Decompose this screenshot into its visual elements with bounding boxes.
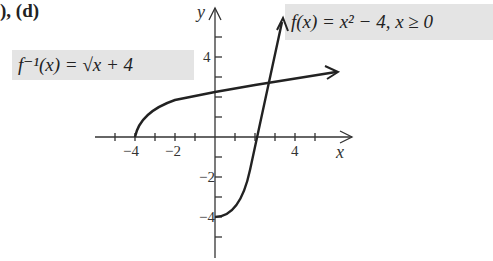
svg-text:−2: −2 <box>165 143 181 159</box>
svg-text:−2: −2 <box>199 169 215 185</box>
function-curve <box>215 22 282 217</box>
y-axis-label: y <box>195 2 205 22</box>
svg-text:−4: −4 <box>123 143 139 159</box>
inverse-curve <box>135 72 336 137</box>
x-axis-label: x <box>335 142 344 162</box>
svg-text:4: 4 <box>291 143 299 159</box>
svg-text:4: 4 <box>203 49 211 65</box>
svg-text:−4: −4 <box>199 209 215 225</box>
